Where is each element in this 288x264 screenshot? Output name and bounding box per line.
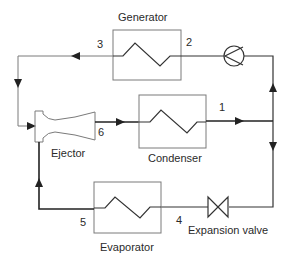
- line-3-down: [18, 56, 34, 126]
- expansion-valve-icon: [208, 197, 228, 217]
- condenser-coil-icon: [139, 110, 206, 133]
- generator-label: Generator: [118, 11, 168, 23]
- expansion-valve-label: Expansion valve: [188, 224, 268, 236]
- ejector-icon: [35, 111, 95, 142]
- state-point-4: 4: [176, 214, 182, 226]
- state-point-3: 3: [97, 38, 103, 50]
- arrow-right-icon: [116, 118, 125, 126]
- state-point-1: 1: [219, 101, 225, 113]
- generator-coil-icon: [113, 43, 181, 66]
- state-point-2: 2: [186, 36, 192, 48]
- condenser: Condenser: [139, 95, 206, 164]
- generator: Generator: [113, 11, 181, 80]
- state-point-5: 5: [80, 216, 86, 228]
- evaporator-coil-icon: [94, 197, 161, 218]
- arrow-right-icon: [235, 117, 244, 125]
- arrow-down-icon: [269, 142, 277, 151]
- pump-icon: [224, 46, 244, 66]
- line-junction-to-valve: [229, 121, 273, 207]
- arrow-up-icon: [35, 178, 43, 187]
- state-point-6: 6: [98, 126, 104, 138]
- arrow-left-icon: [71, 52, 80, 60]
- ejector-label: Ejector: [51, 147, 86, 159]
- evaporator-label: Evaporator: [100, 241, 154, 253]
- ejector: Ejector: [35, 111, 95, 159]
- pump: [224, 46, 244, 66]
- pump-triangle-icon: [225, 47, 243, 65]
- arrow-down-icon: [14, 79, 22, 88]
- evaporator: Evaporator: [94, 182, 161, 253]
- expansion-valve: Expansion valve: [188, 197, 268, 236]
- condenser-label: Condenser: [148, 152, 202, 164]
- ejector-cycle-diagram: Generator 2 3 Ejector 6 Condenser 1 Expa…: [0, 0, 288, 264]
- line-pump-to-junction: [244, 56, 273, 121]
- arrow-up-icon: [269, 83, 277, 92]
